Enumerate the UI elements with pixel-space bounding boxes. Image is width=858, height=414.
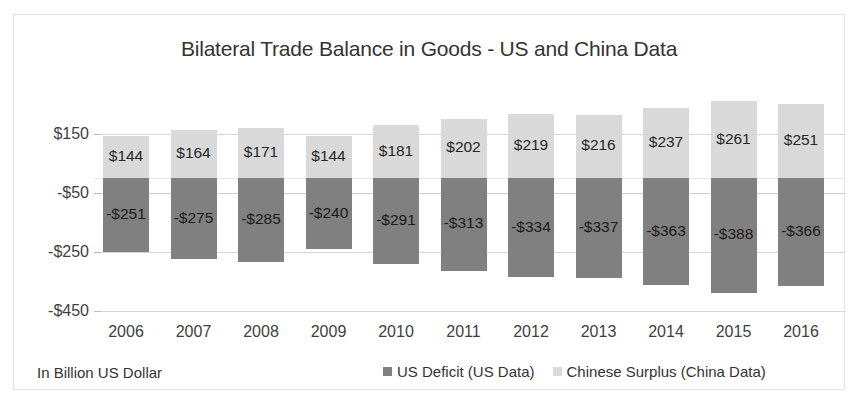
bar-column[interactable]: $202-$313 bbox=[441, 75, 487, 311]
plot-area: $150-$50-$250-$450 $144-$251$164-$275$17… bbox=[101, 75, 846, 311]
bar-column[interactable]: $251-$366 bbox=[778, 75, 824, 311]
chart-title: Bilateral Trade Balance in Goods - US an… bbox=[14, 37, 844, 61]
data-label-deficit: -$313 bbox=[444, 214, 484, 232]
bar-column[interactable]: $237-$363 bbox=[643, 75, 689, 311]
data-label-deficit: -$285 bbox=[241, 210, 281, 228]
data-label-surplus: $181 bbox=[379, 142, 413, 160]
x-axis-label-2006: 2006 bbox=[108, 323, 144, 341]
y-tick-mark bbox=[94, 311, 101, 312]
data-label-surplus: $216 bbox=[581, 136, 615, 154]
x-axis-label-2007: 2007 bbox=[176, 323, 212, 341]
legend-swatch-surplus bbox=[553, 367, 562, 376]
data-label-deficit: -$291 bbox=[376, 211, 416, 229]
bar-column[interactable]: $164-$275 bbox=[171, 75, 217, 311]
data-label-deficit: -$366 bbox=[781, 222, 821, 240]
data-label-deficit: -$251 bbox=[106, 205, 146, 223]
x-axis-label-2015: 2015 bbox=[716, 323, 752, 341]
legend-item-deficit[interactable]: US Deficit (US Data) bbox=[383, 363, 535, 380]
x-axis-label-2011: 2011 bbox=[446, 323, 480, 341]
y-axis-label: -$50 bbox=[57, 184, 89, 202]
x-axis-label-2012: 2012 bbox=[513, 323, 549, 341]
legend-swatch-deficit bbox=[383, 367, 392, 376]
x-axis-label-2014: 2014 bbox=[648, 323, 684, 341]
units-footnote: In Billion US Dollar bbox=[37, 364, 162, 381]
gridline--450 bbox=[94, 311, 846, 312]
bar-column[interactable]: $144-$240 bbox=[306, 75, 352, 311]
x-axis-label-2013: 2013 bbox=[581, 323, 617, 341]
bar-column[interactable]: $261-$388 bbox=[711, 75, 757, 311]
data-label-surplus: $164 bbox=[176, 144, 210, 162]
x-axis-label-2016: 2016 bbox=[783, 323, 819, 341]
chart-container: Bilateral Trade Balance in Goods - US an… bbox=[13, 14, 845, 390]
data-label-deficit: -$240 bbox=[309, 204, 349, 222]
bar-column[interactable]: $144-$251 bbox=[103, 75, 149, 311]
data-label-deficit: -$363 bbox=[646, 222, 686, 240]
legend-label-surplus: Chinese Surplus (China Data) bbox=[567, 363, 766, 380]
bar-column[interactable]: $219-$334 bbox=[508, 75, 554, 311]
data-label-surplus: $237 bbox=[649, 133, 683, 151]
y-tick-mark bbox=[94, 252, 101, 253]
y-axis-label: -$250 bbox=[48, 243, 89, 261]
data-label-deficit: -$275 bbox=[174, 209, 214, 227]
data-label-deficit: -$337 bbox=[579, 218, 619, 236]
y-axis-label: -$450 bbox=[48, 302, 89, 320]
x-axis-label-2010: 2010 bbox=[378, 323, 414, 341]
bar-column[interactable]: $181-$291 bbox=[373, 75, 419, 311]
data-label-deficit: -$388 bbox=[714, 225, 754, 243]
x-axis-label-2008: 2008 bbox=[243, 323, 279, 341]
data-label-surplus: $144 bbox=[311, 147, 345, 165]
legend-label-deficit: US Deficit (US Data) bbox=[397, 363, 535, 380]
y-axis-label: $150 bbox=[53, 125, 89, 143]
bar-column[interactable]: $216-$337 bbox=[576, 75, 622, 311]
bar-column[interactable]: $171-$285 bbox=[238, 75, 284, 311]
data-label-surplus: $251 bbox=[784, 131, 818, 149]
legend-item-surplus[interactable]: Chinese Surplus (China Data) bbox=[553, 363, 766, 380]
data-label-surplus: $261 bbox=[716, 130, 750, 148]
data-label-surplus: $219 bbox=[514, 136, 548, 154]
y-tick-mark bbox=[94, 193, 101, 194]
data-label-deficit: -$334 bbox=[511, 218, 551, 236]
data-label-surplus: $202 bbox=[446, 138, 480, 156]
chart-legend: US Deficit (US Data) Chinese Surplus (Ch… bbox=[383, 363, 766, 380]
x-axis-label-2009: 2009 bbox=[311, 323, 347, 341]
data-label-surplus: $144 bbox=[109, 147, 143, 165]
data-label-surplus: $171 bbox=[244, 143, 278, 161]
y-tick-mark bbox=[94, 134, 101, 135]
